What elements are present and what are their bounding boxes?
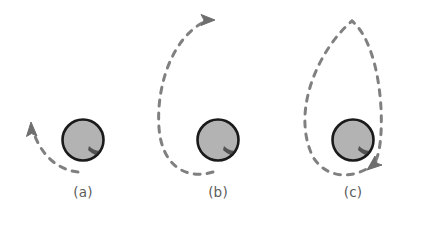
arrow-down-left-icon [367,156,382,170]
figure-canvas: (a) (b) (c) [0,0,430,225]
panel-b [159,15,239,175]
panel-a [27,120,105,173]
sphere-c [332,120,374,170]
sphere-a [62,120,104,170]
panel-label-b: (b) [178,184,258,200]
arrow-up-left-icon [27,122,38,137]
panel-c [305,21,382,175]
arrow-right-icon [201,15,215,26]
sphere-b [197,120,239,170]
panel-label-a: (a) [43,184,123,200]
panel-label-c: (c) [313,184,393,200]
